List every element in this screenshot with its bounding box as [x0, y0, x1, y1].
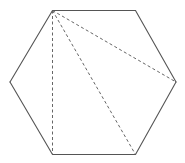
diagonal-top-left-to-right: [53, 11, 177, 83]
hexagon-edge-top-right-to-right: [136, 11, 177, 83]
hexagon-outline: [10, 11, 176, 155]
diagonal-top-left-to-bottom-right: [53, 11, 136, 155]
hexagon-diagram: [0, 0, 185, 163]
hexagon-edge-bottom-left-to-left: [10, 82, 53, 155]
hexagon-diagonals: [53, 11, 177, 155]
hexagon-edge-left-to-top-left: [10, 11, 53, 83]
hexagon-edge-right-to-bottom-right: [136, 82, 177, 155]
